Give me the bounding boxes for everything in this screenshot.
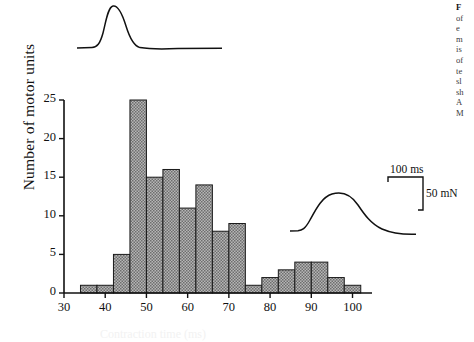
histogram-bar — [278, 270, 294, 293]
histogram-bar — [212, 231, 228, 293]
histogram-bar — [163, 169, 179, 293]
histogram-bar — [97, 285, 113, 293]
x-tick-label: 70 — [209, 300, 249, 315]
histogram-bar — [262, 278, 278, 293]
x-tick-label: 50 — [126, 300, 166, 315]
scale-bar-force-label: 50 mN — [426, 187, 458, 199]
histogram-bar — [146, 177, 162, 293]
histogram-bar — [130, 100, 146, 293]
x-axis-label-cropped: Contraction time (ms) — [100, 327, 350, 341]
histogram-bar — [196, 185, 212, 293]
x-tick-label: 80 — [250, 300, 290, 315]
x-tick-label: 90 — [291, 300, 331, 315]
x-tick-label: 40 — [85, 300, 125, 315]
histogram-bar — [245, 285, 261, 293]
y-tick-label: 25 — [22, 91, 56, 106]
scale-bar — [388, 177, 423, 210]
x-tick-label: 30 — [44, 300, 84, 315]
scale-bar-time-label: 100 ms — [390, 163, 424, 175]
histogram-bar — [295, 262, 311, 293]
y-tick-label: 10 — [22, 207, 56, 222]
y-tick-label: 20 — [22, 130, 56, 145]
x-tick-label: 100 — [333, 300, 373, 315]
histogram-bar — [229, 224, 245, 293]
fast-twitch-trace — [77, 6, 222, 49]
histogram-bar — [311, 262, 327, 293]
figure-panel: Number of motor units F of e m is of te … — [0, 0, 474, 342]
histogram-bar — [113, 254, 129, 293]
histogram-bar — [80, 285, 96, 293]
histogram-bar — [179, 208, 195, 293]
histogram-bar — [328, 278, 344, 293]
y-tick-label: 5 — [22, 245, 56, 260]
x-tick-label: 60 — [168, 300, 208, 315]
bar-series — [80, 100, 360, 293]
y-tick-label: 15 — [22, 168, 56, 183]
histogram-bar — [344, 285, 360, 293]
slow-twitch-trace — [290, 193, 416, 234]
y-tick-label: 0 — [22, 284, 56, 299]
